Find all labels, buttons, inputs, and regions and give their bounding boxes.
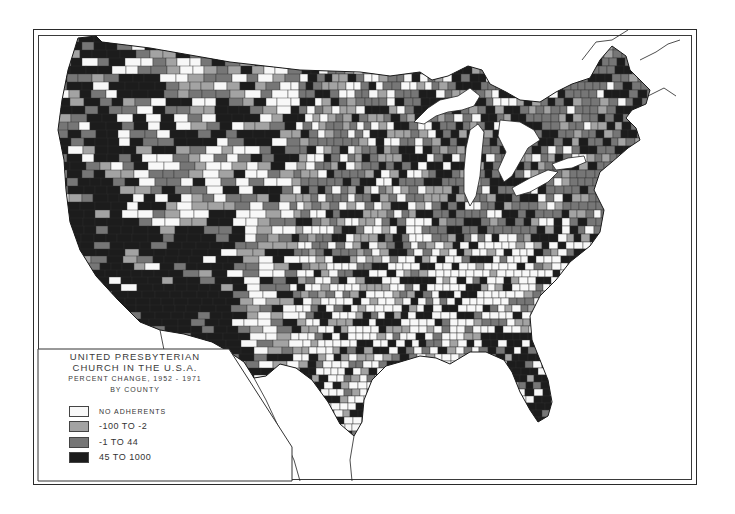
legend-swatch-black: [69, 452, 89, 463]
legend-label: -1 TO 44: [99, 437, 138, 447]
legend-item-large-increase: 45 TO 1000: [69, 451, 151, 463]
legend-label: -100 TO -2: [99, 421, 147, 431]
legend-swatch-white: [69, 406, 89, 417]
legend-label: NO ADHERENTS: [99, 408, 166, 415]
legend-subtitle2: BY COUNTY: [40, 385, 230, 395]
legend-title-line1: UNITED PRESBYTERIAN: [40, 351, 230, 362]
legend-subtitle: PERCENT CHANGE, 1952 - 1971: [40, 374, 230, 384]
legend-swatch-mid-gray: [69, 437, 89, 448]
legend-swatch-light-gray: [69, 421, 89, 432]
legend-label: 45 TO 1000: [99, 452, 151, 462]
legend-item-no-adherents: NO ADHERENTS: [69, 405, 166, 417]
legend-title-line2: CHURCH IN THE U.S.A.: [40, 362, 230, 373]
legend: UNITED PRESBYTERIAN CHURCH IN THE U.S.A.…: [40, 351, 230, 395]
legend-item-small-increase: -1 TO 44: [69, 436, 138, 448]
legend-item-decrease: -100 TO -2: [69, 420, 147, 432]
